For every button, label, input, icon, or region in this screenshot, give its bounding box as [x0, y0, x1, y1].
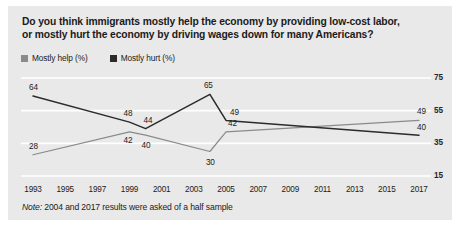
- legend-swatch-icon-mostly-hurt: [110, 55, 117, 62]
- note-prefix: Note:: [22, 202, 42, 212]
- y-tick-label-15: 15: [434, 171, 443, 180]
- chart-legend: Mostly help (%) Mostly hurt (%): [21, 51, 175, 65]
- chart-title-line-1: Do you think immigrants mostly help the …: [22, 15, 422, 28]
- y-tick-label-75: 75: [434, 73, 443, 82]
- chart-note: Note: 2004 and 2017 results were asked o…: [22, 202, 233, 212]
- legend-label-mostly-hurt: Mostly hurt (%): [121, 53, 175, 63]
- chart-card: Do you think immigrants mostly help the …: [8, 6, 452, 220]
- data-label-hurt-1993: 64: [29, 83, 38, 92]
- x-tick-label-2001: 2001: [147, 185, 177, 194]
- data-label-help-2004: 30: [206, 158, 215, 167]
- data-label-help-1999: 42: [124, 136, 133, 145]
- plot-svg: [21, 68, 431, 180]
- x-tick-label-2011: 2011: [308, 185, 338, 194]
- data-label-hurt-2005: 49: [230, 108, 239, 117]
- x-tick-label-1999: 1999: [115, 185, 145, 194]
- series-line-mostly-hurt: [33, 94, 419, 135]
- data-label-hurt-2004: 65: [204, 81, 213, 90]
- y-tick-label-35: 35: [434, 138, 443, 147]
- data-label-hurt-2000: 44: [144, 116, 153, 125]
- y-tick-label-55: 55: [434, 106, 443, 115]
- x-tick-label-2015: 2015: [372, 185, 402, 194]
- legend-item-mostly-hurt: Mostly hurt (%): [110, 53, 175, 63]
- data-label-help-2005: 42: [228, 119, 237, 128]
- x-tick-label-1993: 1993: [18, 185, 48, 194]
- note-text: 2004 and 2017 results were asked of a ha…: [42, 202, 233, 212]
- data-label-hurt-2017: 40: [417, 123, 426, 132]
- legend-label-mostly-help: Mostly help (%): [32, 53, 88, 63]
- series-line-mostly-help: [33, 120, 419, 154]
- data-label-hurt-1999: 48: [124, 109, 133, 118]
- chart-title: Do you think immigrants mostly help the …: [22, 15, 422, 41]
- x-tick-label-1997: 1997: [82, 185, 112, 194]
- legend-swatch-icon-mostly-help: [21, 55, 28, 62]
- data-label-help-2017: 49: [417, 107, 426, 116]
- x-tick-label-2013: 2013: [340, 185, 370, 194]
- legend-item-mostly-help: Mostly help (%): [21, 53, 88, 63]
- chart-title-line-2: or mostly hurt the economy by driving wa…: [22, 28, 422, 41]
- x-tick-label-1995: 1995: [50, 185, 80, 194]
- data-label-help-1993: 28: [29, 142, 38, 151]
- x-tick-label-2007: 2007: [243, 185, 273, 194]
- plot-area: [21, 68, 431, 180]
- x-tick-label-2009: 2009: [275, 185, 305, 194]
- x-tick-label-2017: 2017: [404, 185, 434, 194]
- x-tick-label-2003: 2003: [179, 185, 209, 194]
- data-label-help-2000: 40: [142, 141, 151, 150]
- x-tick-label-2005: 2005: [211, 185, 241, 194]
